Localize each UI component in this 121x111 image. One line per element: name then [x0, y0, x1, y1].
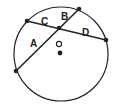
endpoint-right: [104, 38, 109, 43]
endpoint-left: [25, 19, 30, 24]
intersection-point: [57, 26, 62, 31]
label-c: C: [41, 16, 48, 27]
circle-chords-diagram: C B D A: [0, 0, 121, 111]
endpoint-top-right: [77, 7, 82, 12]
endpoint-bottom-left: [14, 69, 19, 74]
filled-dot-marker: [58, 51, 63, 56]
label-b: B: [61, 11, 68, 22]
label-a: A: [30, 38, 37, 49]
chord-c-d: [27, 21, 106, 40]
label-d: D: [82, 27, 89, 38]
center-open-marker: [56, 41, 61, 46]
